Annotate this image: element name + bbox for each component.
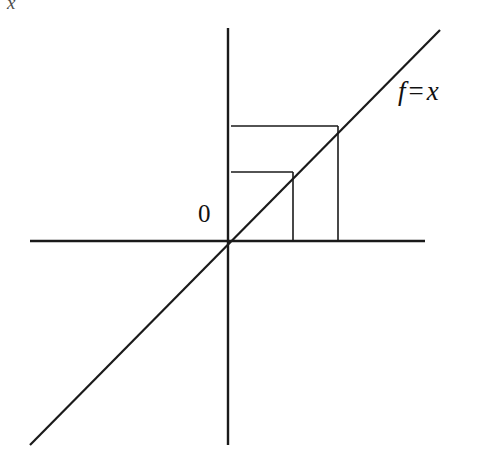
axes-group bbox=[30, 28, 425, 445]
corner-artifact-glyph: x bbox=[7, 0, 15, 12]
cobweb-plot-svg bbox=[0, 0, 496, 471]
origin-label: 0 bbox=[198, 201, 211, 226]
identity-line-group bbox=[30, 30, 440, 445]
function-label-argument: x bbox=[427, 76, 439, 106]
function-label: f=x bbox=[398, 78, 439, 105]
identity-line-f-equals-x bbox=[30, 30, 440, 445]
figure-canvas: x 0 f=x bbox=[0, 0, 496, 471]
function-label-name: f bbox=[398, 76, 406, 106]
function-label-operator: = bbox=[406, 76, 427, 106]
